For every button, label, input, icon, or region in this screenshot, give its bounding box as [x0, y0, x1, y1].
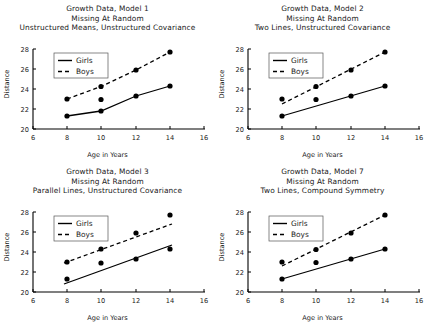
svg-text:8: 8	[280, 134, 284, 142]
panel-3-ytick-labels: 2826 2422 20	[21, 209, 29, 297]
svg-text:6: 6	[246, 134, 250, 142]
legend-boys-label: Boys	[76, 230, 94, 239]
panel-2-ytick-labels: 2826 2422 20	[236, 46, 244, 134]
svg-text:26: 26	[236, 66, 244, 74]
panel-model-2: Growth Data, Model 2 Missing At Random T…	[215, 0, 430, 163]
svg-text:24: 24	[21, 249, 29, 257]
svg-text:10: 10	[312, 134, 320, 142]
svg-text:28: 28	[21, 209, 29, 217]
svg-text:26: 26	[236, 229, 244, 237]
svg-text:24: 24	[21, 86, 29, 94]
svg-text:20: 20	[21, 289, 29, 297]
svg-text:28: 28	[236, 209, 244, 217]
panel-3-legend: Girls Boys	[54, 216, 108, 241]
panel-model-1: Growth Data, Model 1 Missing At Random U…	[0, 0, 215, 163]
svg-text:6: 6	[31, 297, 35, 305]
svg-text:16: 16	[200, 297, 208, 305]
svg-text:14: 14	[381, 134, 389, 142]
svg-text:22: 22	[21, 106, 29, 114]
legend-boys-label: Boys	[291, 230, 309, 239]
legend-boys-label: Boys	[76, 67, 94, 76]
panel-4-xtick-labels: 68 1012 1416	[246, 297, 423, 305]
svg-text:16: 16	[415, 134, 423, 142]
svg-text:24: 24	[236, 249, 244, 257]
legend-girls-label: Girls	[76, 56, 93, 65]
panel-model-7: Growth Data, Model 7 Missing At Random T…	[215, 163, 430, 326]
svg-text:22: 22	[236, 269, 244, 277]
svg-text:14: 14	[381, 297, 389, 305]
svg-text:8: 8	[280, 297, 284, 305]
panel-2-legend: Girls Boys	[269, 53, 323, 78]
svg-text:12: 12	[347, 134, 355, 142]
svg-text:22: 22	[236, 106, 244, 114]
svg-text:28: 28	[236, 46, 244, 54]
panel-2-plot: 2826 2422 20 68 1012 1416	[215, 0, 430, 163]
svg-text:14: 14	[166, 134, 174, 142]
panel-3-plot: 2826 2422 20 68 1012 1416	[0, 163, 215, 326]
svg-text:26: 26	[21, 66, 29, 74]
panel-model-3: Growth Data, Model 3 Missing At Random P…	[0, 163, 215, 326]
svg-text:12: 12	[132, 134, 140, 142]
legend-boys-label: Boys	[291, 67, 309, 76]
panel-1-legend: Girls Boys	[54, 53, 108, 78]
svg-text:16: 16	[415, 297, 423, 305]
panel-1-plot: 2826 2422 20 68 1012 1416	[0, 0, 215, 163]
svg-text:8: 8	[65, 297, 69, 305]
svg-text:16: 16	[200, 134, 208, 142]
svg-text:10: 10	[97, 134, 105, 142]
panel-4-ytick-labels: 2826 2422 20	[236, 209, 244, 297]
panel-grid: Growth Data, Model 1 Missing At Random U…	[0, 0, 430, 326]
svg-text:6: 6	[31, 134, 35, 142]
legend-girls-label: Girls	[291, 219, 308, 228]
svg-text:10: 10	[97, 297, 105, 305]
legend-girls-label: Girls	[291, 56, 308, 65]
svg-text:28: 28	[21, 46, 29, 54]
svg-text:22: 22	[21, 269, 29, 277]
panel-4-legend: Girls Boys	[269, 216, 323, 241]
legend-girls-label: Girls	[76, 219, 93, 228]
panel-1-ytick-labels: 2826 2422 20	[21, 46, 29, 134]
panel-4-plot: 2826 2422 20 68 1012 1416	[215, 163, 430, 326]
svg-text:10: 10	[312, 297, 320, 305]
svg-text:14: 14	[166, 297, 174, 305]
panel-1-xtick-labels: 68 1012 1416	[31, 134, 208, 142]
panel-3-xtick-labels: 68 1012 1416	[31, 297, 208, 305]
svg-text:20: 20	[236, 289, 244, 297]
svg-text:8: 8	[65, 134, 69, 142]
svg-text:20: 20	[236, 126, 244, 134]
svg-text:20: 20	[21, 126, 29, 134]
panel-2-xtick-labels: 68 1012 1416	[246, 134, 423, 142]
svg-text:26: 26	[21, 229, 29, 237]
svg-text:12: 12	[132, 297, 140, 305]
svg-text:12: 12	[347, 297, 355, 305]
svg-text:6: 6	[246, 297, 250, 305]
svg-text:24: 24	[236, 86, 244, 94]
